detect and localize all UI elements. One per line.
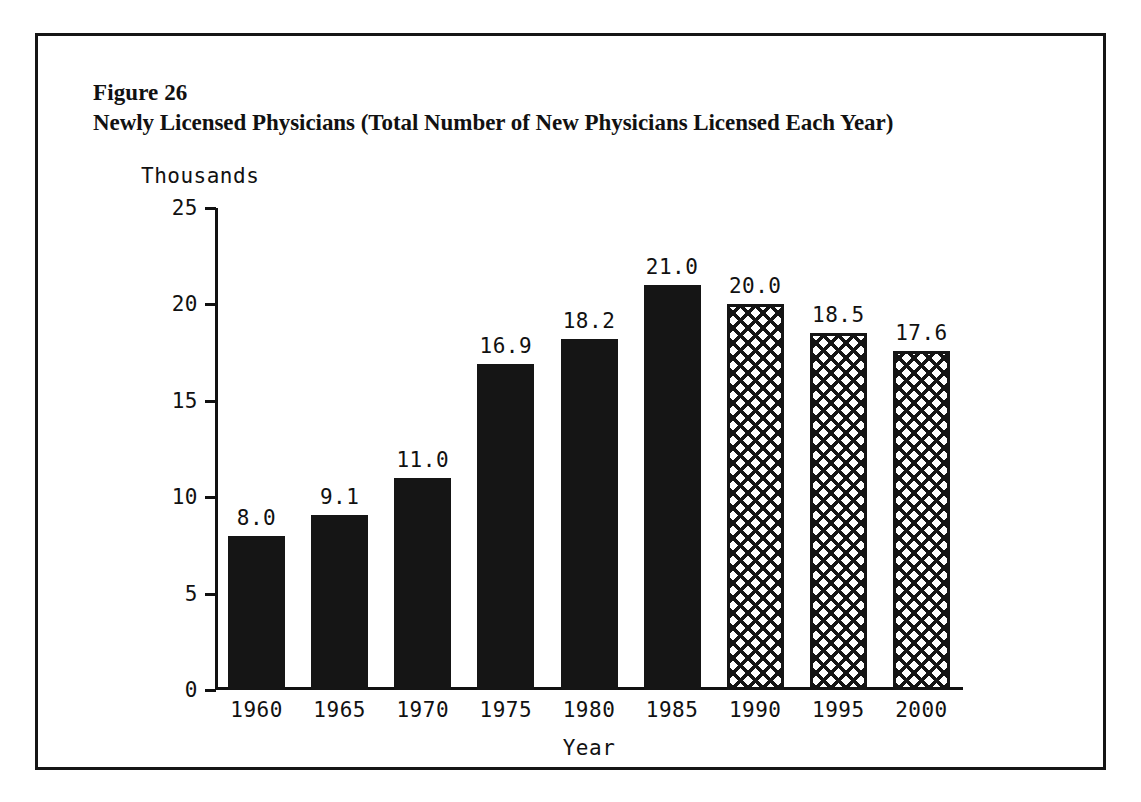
x-tick-label: 1975: [480, 698, 533, 722]
y-tick-label: 10: [172, 485, 198, 509]
bar: [228, 536, 285, 690]
bar: [311, 515, 368, 690]
bar: [394, 478, 451, 690]
y-tick-label: 0: [185, 678, 198, 702]
bars-layer: 8.09.111.016.918.221.020.018.517.6: [215, 208, 963, 690]
bar: [561, 339, 618, 690]
bar-group: 21.0: [644, 208, 701, 690]
bar-group: 9.1: [311, 208, 368, 690]
bar: [893, 351, 950, 690]
bar-group: 20.0: [727, 208, 784, 690]
x-tick-label: 1965: [313, 698, 366, 722]
x-tick-label: 1985: [646, 698, 699, 722]
bar: [644, 285, 701, 690]
x-axis-title: Year: [215, 736, 963, 760]
bar-value-label: 11.0: [396, 448, 449, 472]
y-tick-label: 5: [185, 582, 198, 606]
y-tick-label: 20: [172, 292, 198, 316]
bar-value-label: 21.0: [646, 255, 699, 279]
bar-group: 17.6: [893, 208, 950, 690]
y-tick-label: 25: [172, 196, 198, 220]
bar-value-label: 20.0: [729, 274, 782, 298]
y-axis-unit-label: Thousands: [141, 164, 259, 188]
bar: [477, 364, 534, 690]
x-tick-label: 1990: [729, 698, 782, 722]
bar-group: 18.2: [561, 208, 618, 690]
bar-group: 11.0: [394, 208, 451, 690]
bar-group: 8.0: [228, 208, 285, 690]
x-tick-label: 1995: [812, 698, 865, 722]
bar-value-label: 8.0: [237, 506, 276, 530]
bar-chart: Thousands 0510152025 8.09.111.016.918.22…: [38, 36, 1103, 767]
x-tick-label: 1960: [230, 698, 283, 722]
bar-value-label: 17.6: [895, 321, 948, 345]
bar: [810, 333, 867, 690]
x-axis-ticks: 196019651970197519801985199019952000: [215, 698, 963, 732]
bar-group: 18.5: [810, 208, 867, 690]
bar-value-label: 18.5: [812, 303, 865, 327]
x-tick-label: 1980: [563, 698, 616, 722]
figure-border-frame: Figure 26 Newly Licensed Physicians (Tot…: [35, 33, 1106, 770]
y-tick-label: 15: [172, 389, 198, 413]
bar-group: 16.9: [477, 208, 534, 690]
x-tick-label: 1970: [396, 698, 449, 722]
bar: [727, 304, 784, 690]
bar-value-label: 18.2: [563, 309, 616, 333]
bar-value-label: 16.9: [480, 334, 533, 358]
bar-value-label: 9.1: [320, 485, 359, 509]
x-tick-label: 2000: [895, 698, 948, 722]
